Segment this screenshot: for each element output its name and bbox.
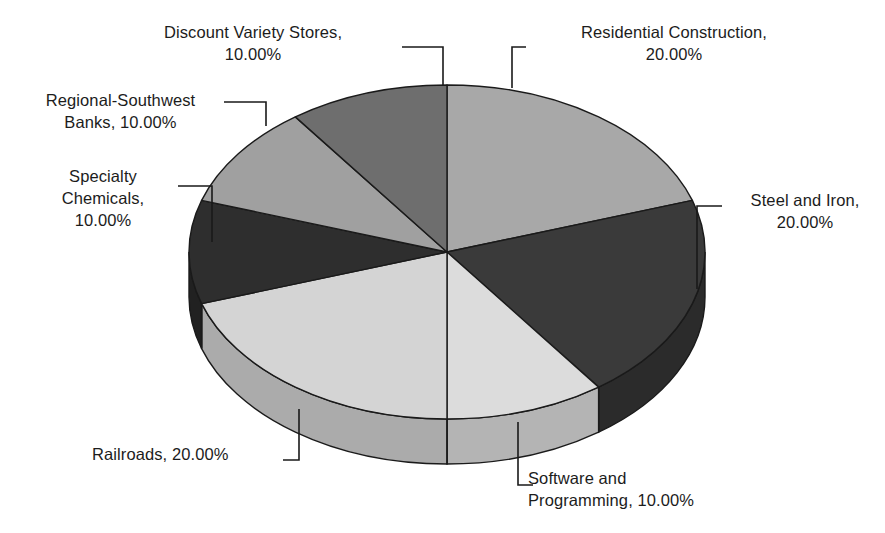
pie-chart: Residential Construction, 20.00%Steel an…	[0, 0, 885, 533]
pie-chart-canvas: Residential Construction, 20.00%Steel an…	[0, 0, 885, 533]
leader-line-5	[512, 47, 526, 88]
leader-line-1	[224, 102, 266, 126]
pie-slice-top-faces: Residential Construction, 20.00%Steel an…	[189, 85, 705, 419]
leader-line-0	[402, 47, 443, 85]
